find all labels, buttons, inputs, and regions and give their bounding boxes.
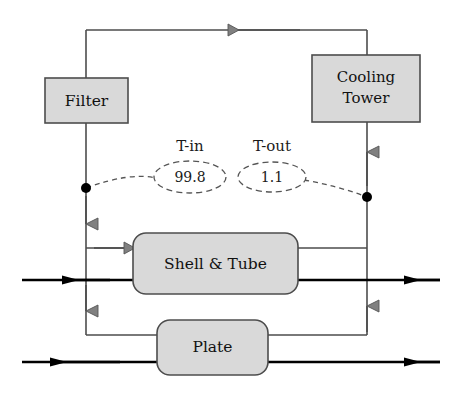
measurement-t-in-label: T-in — [176, 137, 204, 155]
equipment-shell-and-tube-label: Shell & Tube — [164, 255, 267, 273]
equipment-plate[interactable]: Plate — [157, 320, 268, 375]
junction-dot-t-out-tap — [362, 192, 372, 202]
equipment-filter[interactable]: Filter — [45, 78, 128, 123]
equipment-cooling-tower[interactable]: Cooling Tower — [312, 55, 420, 122]
equipment-shell-and-tube[interactable]: Shell & Tube — [133, 233, 298, 294]
process-flow-diagram: Filter Cooling Tower Shell & Tube Plate … — [0, 0, 461, 394]
measurement-t-out-value: 1.1 — [261, 169, 283, 185]
measurement-t-out[interactable]: T-out 1.1 — [238, 137, 306, 192]
signal-lead-t-out — [304, 180, 367, 197]
signal-lead-t-in — [86, 176, 156, 188]
measurement-t-in-value: 99.8 — [174, 169, 205, 185]
diagram-canvas: Filter Cooling Tower Shell & Tube Plate … — [0, 0, 461, 394]
junction-dot-t-in-tap — [81, 183, 91, 193]
measurement-t-out-label: T-out — [253, 137, 291, 155]
measurement-t-in[interactable]: T-in 99.8 — [154, 137, 226, 193]
equipment-plate-label: Plate — [192, 338, 232, 356]
equipment-cooling-tower-label-line2: Tower — [343, 89, 391, 107]
equipment-cooling-tower-label-line1: Cooling — [337, 68, 396, 86]
equipment-filter-label: Filter — [65, 92, 109, 110]
